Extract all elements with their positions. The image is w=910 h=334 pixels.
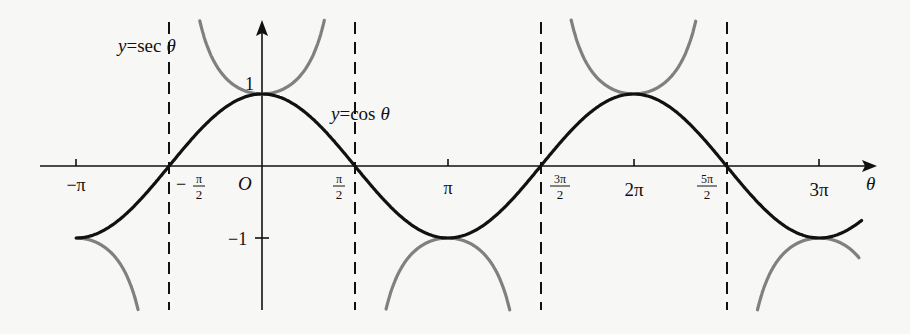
svg-text:2: 2 bbox=[557, 187, 564, 202]
svg-text:2: 2 bbox=[196, 187, 203, 202]
x-tick-label-neg-pi: −π bbox=[66, 175, 85, 195]
x-tick-label-pi: π bbox=[443, 178, 452, 198]
axes bbox=[40, 20, 877, 310]
x-tick-label-neg-half-pi: − π 2 bbox=[176, 172, 205, 202]
x-tick-label-five-half-pi: 5π 2 bbox=[697, 172, 717, 202]
x-tick-label-half-pi: π 2 bbox=[333, 172, 345, 202]
svg-text:2: 2 bbox=[336, 187, 343, 202]
svg-text:π: π bbox=[196, 172, 202, 186]
svg-text:π: π bbox=[336, 172, 342, 186]
x-tick-label-three-half-pi: 3π 2 bbox=[550, 172, 570, 202]
cos-curve-label: y=cosθ bbox=[329, 103, 390, 124]
x-tick-label-two-pi: 2π bbox=[624, 179, 644, 200]
sec-curve bbox=[76, 20, 859, 310]
svg-text:3π: 3π bbox=[554, 172, 566, 186]
origin-label: O bbox=[238, 173, 252, 194]
x-tick-label-three-pi: 3π bbox=[809, 179, 829, 200]
y-tick-label-one: 1 bbox=[245, 74, 254, 94]
y-tick-label-neg-one: −1 bbox=[228, 229, 247, 249]
svg-text:5π: 5π bbox=[701, 172, 713, 186]
svg-text:2: 2 bbox=[704, 187, 711, 202]
svg-text:−: − bbox=[176, 174, 186, 194]
cos-sec-graph: y=secθ y=cosθ θ O 1 −1 −π − π 2 π 2 π 3π… bbox=[0, 0, 910, 334]
x-axis-label: θ bbox=[866, 173, 875, 194]
sec-curve-label: y=secθ bbox=[116, 35, 176, 56]
